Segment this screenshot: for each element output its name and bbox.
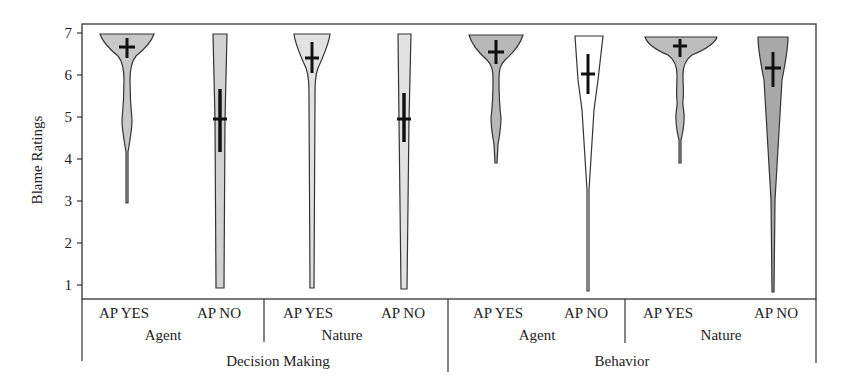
violin-dm-nature-apyes (294, 34, 330, 288)
condition-label: AP YES (283, 305, 333, 321)
condition-label: AP NO (197, 305, 241, 321)
violin-dm-agent-apyes (100, 34, 154, 203)
violin-chart: 1 2 3 4 5 6 7 Blame Ratings (0, 0, 847, 388)
condition-label: AP NO (381, 305, 425, 321)
condition-label: AP YES (99, 305, 149, 321)
subgroup-label: Nature (322, 327, 363, 343)
condition-label: AP NO (754, 305, 798, 321)
y-axis-title: Blame Ratings (29, 115, 45, 204)
group-label: Decision Making (226, 353, 330, 369)
violin-beh-nature-apyes (645, 37, 717, 163)
subgroup-label: Agent (519, 327, 556, 343)
violin-beh-agent-apno (575, 36, 603, 291)
y-tick-label: 5 (65, 109, 73, 125)
plot-frame (82, 24, 816, 299)
condition-label: AP NO (564, 305, 608, 321)
violin-beh-nature-apno (758, 37, 788, 292)
group-labels: Decision Making Behavior (226, 353, 649, 369)
y-tick-label: 2 (65, 235, 73, 251)
subgroup-label: Nature (701, 327, 742, 343)
violin-beh-agent-apyes (469, 35, 523, 163)
y-axis: 1 2 3 4 5 6 7 Blame Ratings (29, 25, 82, 293)
condition-label: AP YES (473, 305, 523, 321)
y-tick-label: 4 (65, 151, 73, 167)
group-label: Behavior (595, 353, 650, 369)
violins (100, 34, 788, 292)
subgroup-labels: Agent Nature Agent Nature (145, 327, 742, 343)
y-tick-label: 3 (65, 193, 73, 209)
y-tick-label: 6 (65, 67, 73, 83)
violin-dm-nature-apno (397, 34, 411, 289)
y-tick-label: 1 (65, 277, 73, 293)
violin-dm-agent-apno (213, 34, 227, 288)
y-tick-label: 7 (65, 25, 73, 41)
condition-label: AP YES (643, 305, 693, 321)
subgroup-label: Agent (145, 327, 182, 343)
